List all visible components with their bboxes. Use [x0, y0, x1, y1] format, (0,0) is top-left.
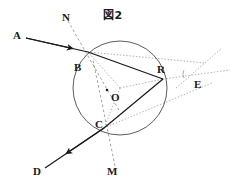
- ray-A-to-B-arrowhead: [26, 38, 73, 49]
- point-label-A: A: [13, 30, 21, 41]
- geometry-figure: 図2 A B C D E M N O R: [0, 0, 237, 184]
- point-label-C: C: [95, 119, 103, 130]
- angle-arc-at-E: [183, 70, 184, 78]
- ray-C-to-D-arrowhead: [66, 128, 104, 154]
- point-label-D: D: [33, 166, 41, 177]
- point-label-N: N: [62, 12, 70, 23]
- normal-M-through-C: [93, 60, 115, 166]
- center-point-O: [106, 89, 109, 92]
- point-label-O: O: [111, 92, 120, 103]
- point-label-B: B: [74, 62, 81, 73]
- point-label-M: M: [107, 166, 117, 177]
- point-label-R: R: [157, 64, 165, 75]
- secant-B-to-E: [88, 52, 206, 63]
- radius-O-to-R: [120, 79, 163, 88]
- solid-ray-paths: [26, 38, 163, 168]
- point-label-E: E: [194, 79, 201, 90]
- figure-title: 図2: [103, 10, 123, 21]
